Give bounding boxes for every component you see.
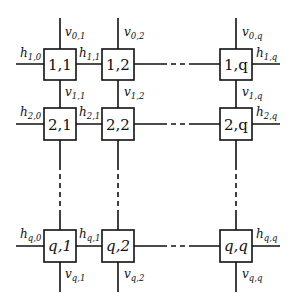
node-q-q: q,q — [220, 230, 252, 262]
label-h21: h2,1 — [79, 105, 100, 121]
svg-text:2,q: 2,q — [224, 116, 248, 134]
label-v02: v0,2 — [124, 25, 144, 41]
label-v11: v1,1 — [65, 85, 85, 101]
node-1-1: 1,1 — [44, 49, 76, 80]
label-h20: h2,0 — [20, 105, 42, 121]
label-v1q: v1,q — [242, 85, 263, 101]
label-v01: v0,1 — [65, 25, 85, 41]
svg-text:1,2: 1,2 — [106, 56, 130, 74]
node-q-1: q,1 — [44, 230, 76, 262]
svg-text:q,2: q,2 — [106, 237, 130, 255]
horizontal-links — [16, 64, 280, 246]
node-2-q: 2,q — [220, 108, 252, 140]
label-hqq: hq,q — [256, 227, 278, 243]
svg-text:1,q: 1,q — [224, 56, 248, 74]
label-h2q: h2,q — [256, 105, 278, 121]
label-hq1: hq,1 — [79, 227, 100, 243]
svg-text:1,1: 1,1 — [48, 56, 72, 74]
node-2-1: 2,1 — [44, 108, 76, 140]
svg-text:2,1: 2,1 — [48, 116, 72, 134]
label-v12: v1,2 — [124, 85, 144, 101]
mesh-diagram: 1,1 1,2 1,q 2,1 2,2 2,q q,1 q,2 q,q v0,1… — [0, 0, 296, 307]
label-h10: h1,0 — [20, 46, 42, 62]
label-hq0: hq,0 — [20, 227, 42, 243]
label-vq2: vq,2 — [124, 267, 144, 283]
svg-text:q,q: q,q — [224, 237, 248, 255]
svg-text:q,1: q,1 — [48, 237, 72, 255]
node-q-2: q,2 — [102, 230, 134, 262]
label-vqq: vq,q — [242, 267, 263, 283]
label-vq1: vq,1 — [65, 267, 85, 283]
node-2-2: 2,2 — [102, 108, 134, 140]
label-v0q: v0,q — [242, 25, 263, 41]
label-h11: h1,1 — [79, 46, 100, 62]
label-h1q: h1,q — [256, 46, 278, 62]
svg-text:2,2: 2,2 — [106, 116, 130, 134]
node-1-2: 1,2 — [102, 49, 134, 80]
node-1-q: 1,q — [220, 49, 252, 80]
